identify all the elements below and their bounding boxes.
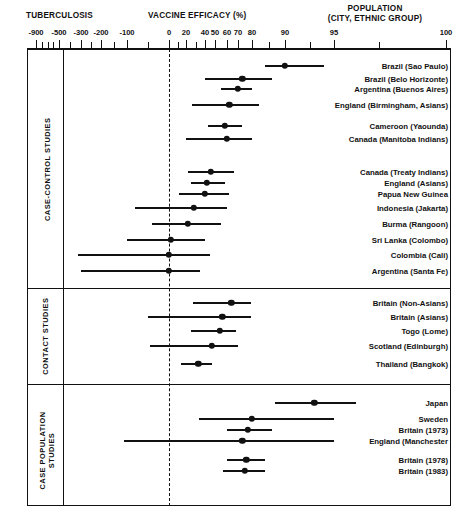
x-tick-20 xyxy=(186,40,187,48)
x-tick-label-50: 50 xyxy=(211,28,219,37)
x-tick-minor--800 xyxy=(42,42,43,48)
x-tick-label-0: 0 xyxy=(167,28,171,37)
x-tick-label-80: 80 xyxy=(248,28,256,37)
study-label: Japan xyxy=(0,399,448,408)
study-label: Britain (1978) xyxy=(0,456,448,465)
x-tick-95 xyxy=(334,40,335,48)
x-tick-minor-85 xyxy=(269,42,270,48)
study-label: Argentina (Santa Fe) xyxy=(0,267,448,276)
x-tick-label-70: 70 xyxy=(234,28,242,37)
x-tick-40 xyxy=(205,40,206,48)
x-tick-minor--50 xyxy=(148,42,149,48)
study-label: Canada (Treaty Indians) xyxy=(0,168,448,177)
x-tick-70 xyxy=(238,40,239,48)
x-tick-label-100: 100 xyxy=(440,28,453,37)
x-tick-60 xyxy=(227,40,228,48)
section-divider-2 xyxy=(27,384,451,385)
x-tick-minor--700 xyxy=(48,42,49,48)
section-divider-1 xyxy=(27,288,451,289)
x-tick-100 xyxy=(446,40,447,48)
x-tick-90 xyxy=(285,40,286,48)
header-tuberculosis: TUBERCULOSIS xyxy=(26,11,93,20)
x-tick-label--500: -500 xyxy=(51,28,66,37)
x-tick-label--900: -900 xyxy=(28,28,43,37)
x-tick-minor--250 xyxy=(91,42,92,48)
x-tick-label--200: -200 xyxy=(93,28,108,37)
study-label: Brazil (Sao Paulo) xyxy=(0,62,448,71)
x-tick-minor--600 xyxy=(53,42,54,48)
x-tick-minor--400 xyxy=(70,42,71,48)
x-tick-label-90: 90 xyxy=(281,28,289,37)
x-tick-minor-30 xyxy=(196,42,197,48)
study-label: Colombia (Cali) xyxy=(0,251,448,260)
x-tick--900 xyxy=(36,40,37,48)
x-tick-label-95: 95 xyxy=(330,28,338,37)
header-vaccine-efficacy: VACCINE EFFICACY (%) xyxy=(148,11,246,20)
study-label: England (Asians) xyxy=(0,179,448,188)
study-label: Thailand (Bangkok) xyxy=(0,360,448,369)
study-label: Indonesia (Jakarta) xyxy=(0,204,448,213)
study-label: Sri Lanka (Colombo) xyxy=(0,236,448,245)
study-label: Canada (Manitoba Indians) xyxy=(0,135,448,144)
study-label: England (Birmingham, Asians) xyxy=(0,101,448,110)
header-population: POPULATION (CITY, ETHNIC GROUP) xyxy=(300,4,450,23)
study-label: Burma (Rangoon) xyxy=(0,220,448,229)
x-tick--500 xyxy=(59,40,60,48)
x-tick-minor--150 xyxy=(114,42,115,48)
study-label: Britain (1973) xyxy=(0,426,448,435)
study-label: Sweden xyxy=(0,415,448,424)
study-label: Britain (Non-Asians) xyxy=(0,299,448,308)
header-population-line1: POPULATION xyxy=(300,4,450,14)
header-population-line2: (CITY, ETHNIC GROUP) xyxy=(300,14,450,24)
x-tick--300 xyxy=(81,40,82,48)
x-tick--100 xyxy=(127,40,128,48)
x-tick-0 xyxy=(169,40,170,48)
study-label: Papua New Guinea xyxy=(0,190,448,199)
x-tick-label-60: 60 xyxy=(223,28,231,37)
x-tick--200 xyxy=(101,40,102,48)
study-label: Brazil (Belo Horizonte) xyxy=(0,75,448,84)
study-label: Britain (Asians) xyxy=(0,313,448,322)
study-label: Argentina (Buenos Aires) xyxy=(0,85,448,94)
x-tick-minor-10 xyxy=(178,42,179,48)
study-label: Cameroon (Yaounda) xyxy=(0,122,448,131)
study-label: Togo (Lome) xyxy=(0,327,448,336)
x-tick-minor-92.5 xyxy=(310,42,311,48)
x-tick-label-40: 40 xyxy=(201,28,209,37)
study-label: Scotland (Edinburgh) xyxy=(0,342,448,351)
study-label: England (Manchester xyxy=(0,437,448,446)
x-tick-80 xyxy=(252,40,253,48)
x-tick-50 xyxy=(215,40,216,48)
x-tick-label--100: -100 xyxy=(119,28,134,37)
study-label: Britain (1983) xyxy=(0,467,448,476)
x-tick-label--300: -300 xyxy=(73,28,88,37)
x-tick-label-20: 20 xyxy=(182,28,190,37)
section-label-contact: CONTACT STUDIES xyxy=(42,276,51,396)
x-tick-minor-97 xyxy=(379,42,380,48)
